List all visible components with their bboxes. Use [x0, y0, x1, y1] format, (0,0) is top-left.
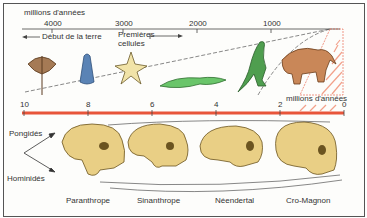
- bottom-tick-2: 2: [278, 101, 282, 109]
- top-unit-label: millions d'années: [24, 9, 85, 17]
- start-annotation: Début de la terre: [42, 33, 102, 41]
- dinosaur-icon: [238, 42, 266, 92]
- top-tick-3000: 3000: [115, 20, 133, 28]
- top-tick-2000: 2000: [189, 20, 207, 28]
- bottom-tick-10: 10: [20, 101, 29, 109]
- bottom-tick-8: 8: [86, 101, 90, 109]
- bottom-tick-4: 4: [214, 101, 218, 109]
- skull-label-cro-magnon: Cro-Magnon: [286, 197, 330, 205]
- skull-cro-magnon-icon: [276, 122, 337, 174]
- top-tick-4000: 4000: [44, 20, 62, 28]
- event-annotation-line1: Premières: [118, 31, 154, 39]
- bottom-tick-0: 0: [342, 101, 346, 109]
- skull-label-neandertal: Néendertal: [215, 197, 254, 205]
- lineage-branch-icon: [24, 133, 55, 172]
- crocodile-icon: [160, 77, 226, 87]
- bottom-tick-6: 6: [150, 101, 154, 109]
- cone-shell-icon: [80, 54, 94, 84]
- skull-label-paranthrope: Paranthrope: [66, 197, 110, 205]
- lineage-hominides: Hominidés: [7, 175, 45, 183]
- skull-sinanthrope-icon: [128, 124, 188, 167]
- trilobite-icon: [28, 56, 56, 95]
- lineage-pongides: Pongidés: [9, 130, 42, 138]
- skull-paranthrope-icon: [62, 124, 125, 175]
- event-annotation-line2: cellules: [118, 40, 145, 48]
- skull-label-sinanthrope: Sinanthrope: [137, 197, 180, 205]
- starfish-icon: [115, 52, 147, 84]
- skull-neandertal-icon: [200, 126, 263, 167]
- bottom-unit-label: millions d'années: [286, 95, 347, 103]
- top-tick-1000: 1000: [263, 20, 281, 28]
